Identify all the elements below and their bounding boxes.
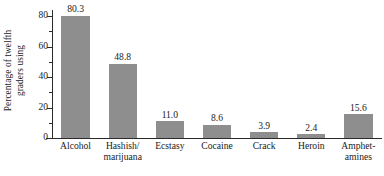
x-axis-label-line: Alcohol (52, 140, 99, 151)
y-tick-major-0 (47, 138, 53, 139)
y-tick-label-20: 20 (30, 103, 48, 113)
x-axis-label-line: Amphet- (335, 140, 382, 151)
bar[interactable] (61, 16, 89, 138)
x-axis-label-line: Crack (241, 140, 288, 151)
bar-group[interactable]: 11.0 (156, 10, 184, 138)
bar-chart: Percentage of twelfth graders using 0204… (0, 0, 384, 176)
x-axis-label: Crack (241, 140, 288, 151)
bar-series: 80.348.811.08.63.92.415.6 (52, 10, 382, 138)
x-axis-label-line: marijuana (99, 151, 146, 162)
bar-group[interactable]: 3.9 (250, 10, 278, 138)
plot-area: 80.348.811.08.63.92.415.6 (52, 10, 382, 138)
y-tick-label-80: 80 (30, 11, 48, 21)
bar-group[interactable]: 80.3 (61, 10, 89, 138)
x-axis-label-line: Hashish/ (99, 140, 146, 151)
x-axis-label: Amphet-amines (335, 140, 382, 163)
bar-value-label: 11.0 (162, 110, 178, 120)
y-axis-title-line-1: Percentage of twelfth (4, 29, 16, 111)
bar[interactable] (156, 121, 184, 138)
x-axis-label: Hashish/marijuana (99, 140, 146, 163)
y-axis-title-line-2: graders using (15, 29, 27, 111)
x-axis-label-line: Heroin (288, 140, 335, 151)
x-axis-label: Ecstasy (146, 140, 193, 151)
bar-value-label: 3.9 (258, 121, 270, 131)
x-axis-label: Heroin (288, 140, 335, 151)
y-axis-tick-labels: 020406080 (30, 0, 48, 176)
bar-group[interactable]: 2.4 (297, 10, 325, 138)
bar-group[interactable]: 15.6 (344, 10, 372, 138)
x-axis-line (46, 138, 382, 139)
y-axis-title: Percentage of twelfth graders using (0, 0, 30, 140)
bar[interactable] (250, 132, 278, 138)
bar-value-label: 15.6 (350, 103, 367, 113)
bar-group[interactable]: 8.6 (203, 10, 231, 138)
bar[interactable] (203, 125, 231, 138)
x-axis-category-labels: AlcoholHashish/marijuanaEcstasyCocaineCr… (52, 140, 382, 176)
x-axis-label: Alcohol (52, 140, 99, 151)
y-tick-label-60: 60 (30, 42, 48, 52)
bar[interactable] (297, 134, 325, 138)
bar-value-label: 48.8 (114, 52, 131, 62)
x-axis-label-line: Ecstasy (146, 140, 193, 151)
x-axis-label: Cocaine (193, 140, 240, 151)
bar-group[interactable]: 48.8 (109, 10, 137, 138)
x-axis-label-line: amines (335, 151, 382, 162)
bar-value-label: 8.6 (211, 113, 223, 123)
bar-value-label: 2.4 (305, 123, 317, 133)
bar[interactable] (344, 114, 372, 138)
bar-value-label: 80.3 (67, 4, 84, 14)
bar[interactable] (109, 64, 137, 138)
x-axis-label-line: Cocaine (193, 140, 240, 151)
y-tick-label-40: 40 (30, 72, 48, 82)
